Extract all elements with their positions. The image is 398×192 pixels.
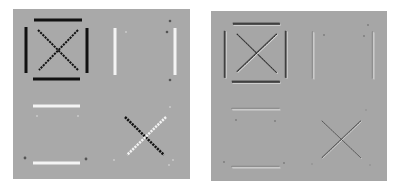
noise-dot (365, 109, 367, 111)
noise-dot (168, 164, 170, 166)
noise-dot (311, 163, 313, 165)
noise-dot (169, 106, 171, 108)
noise-dot (283, 162, 285, 164)
panel-left-solid-lines (13, 9, 190, 179)
figure-canvas (0, 0, 398, 192)
noise-dot (113, 159, 115, 161)
noise-dot (169, 20, 172, 23)
noise-dot (223, 161, 225, 163)
noise-dot (235, 119, 237, 121)
noise-dot (24, 157, 27, 160)
noise-dot (367, 24, 369, 26)
panel-background (211, 11, 387, 181)
noise-dot (323, 34, 325, 36)
noise-dot (363, 35, 365, 37)
noise-dot (85, 158, 88, 161)
figure-comparison (0, 0, 398, 192)
noise-dot (169, 79, 172, 82)
noise-dot (172, 159, 174, 161)
noise-dot (369, 164, 371, 166)
noise-dot (166, 31, 169, 34)
noise-dot (36, 115, 38, 117)
noise-dot (77, 115, 79, 117)
noise-dot (125, 31, 127, 33)
noise-dot (274, 120, 276, 122)
panel-right-embossed-edges (211, 11, 387, 181)
